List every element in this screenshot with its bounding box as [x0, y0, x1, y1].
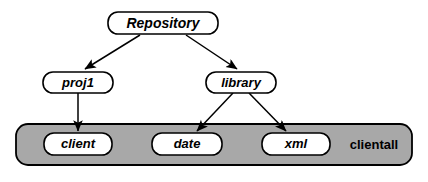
node-xml-label: xml: [284, 136, 308, 151]
node-client-label: client: [61, 136, 96, 151]
diagram-canvas: clientall Repository proj1 library clien…: [0, 0, 428, 182]
repository-hierarchy-diagram: clientall Repository proj1 library clien…: [0, 0, 428, 182]
node-client[interactable]: client: [44, 133, 112, 155]
node-repository-label: Repository: [126, 15, 200, 31]
node-xml[interactable]: xml: [262, 133, 330, 155]
node-date-label: date: [174, 136, 201, 151]
node-proj1[interactable]: proj1: [43, 72, 113, 93]
node-library-label: library: [221, 75, 262, 90]
node-date[interactable]: date: [152, 133, 222, 155]
node-proj1-label: proj1: [61, 75, 94, 90]
node-repository[interactable]: Repository: [108, 12, 218, 34]
edge-repository-to-proj1: [85, 35, 140, 69]
group-clientall-label: clientall: [350, 137, 398, 152]
node-library[interactable]: library: [206, 72, 276, 93]
edge-repository-to-library: [186, 35, 237, 69]
